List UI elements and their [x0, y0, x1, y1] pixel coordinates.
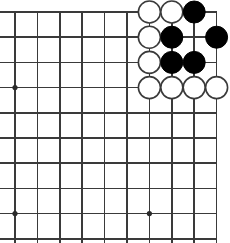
white-stone[interactable] — [161, 77, 183, 99]
stones-layer[interactable] — [138, 1, 227, 99]
black-stone[interactable] — [206, 26, 228, 48]
star-point — [147, 211, 152, 216]
white-stone[interactable] — [206, 77, 228, 99]
go-board-canvas[interactable] — [0, 0, 230, 243]
black-stone[interactable] — [161, 26, 183, 48]
white-stone[interactable] — [161, 1, 183, 23]
go-board-diagram — [0, 0, 230, 243]
white-stone[interactable] — [183, 77, 205, 99]
star-point — [12, 85, 17, 90]
white-stone[interactable] — [138, 1, 160, 23]
star-point — [12, 211, 17, 216]
white-stone[interactable] — [138, 26, 160, 48]
black-stone[interactable] — [161, 51, 183, 73]
black-stone[interactable] — [183, 51, 205, 73]
white-stone[interactable] — [138, 77, 160, 99]
white-stone[interactable] — [138, 51, 160, 73]
grid-lines-layer — [0, 12, 217, 243]
black-stone[interactable] — [183, 1, 205, 23]
